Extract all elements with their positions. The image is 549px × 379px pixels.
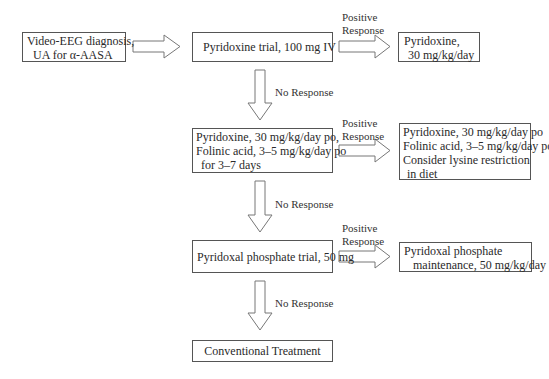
node-plp-maintenance: Pyridoxal phosphate maintenance, 50 mg/k… — [399, 242, 532, 272]
edge-label-no-response: No Response — [275, 198, 333, 211]
node-combo-trial: Pyridoxine, 30 mg/kg/day po, Folinic aci… — [192, 128, 333, 173]
node-text: Pyridoxine, — [404, 34, 479, 48]
label-line: Positive — [342, 117, 384, 130]
edge-label-no-response: No Response — [275, 86, 333, 99]
node-text: Folinic acid, 3–5 mg/kg/day po — [196, 144, 332, 158]
node-text: UA for α-AASA — [27, 48, 125, 62]
node-text: Video-EEG diagnosis, — [27, 34, 125, 48]
arrow-trial1-no-response — [248, 70, 272, 120]
node-text: Pyridoxine, 30 mg/kg/day po — [403, 125, 530, 139]
node-text: maintenance, 50 mg/kg/day — [404, 258, 531, 272]
node-pyridoxine-maintenance: Pyridoxine, 30 mg/kg/day — [398, 32, 480, 62]
arrow-trial3-no-response — [248, 281, 272, 330]
node-combo-maintenance: Pyridoxine, 30 mg/kg/day po Folinic acid… — [399, 123, 531, 180]
node-text: for 3–7 days — [196, 158, 332, 172]
node-text: 30 mg/kg/day — [404, 48, 479, 62]
label-line: Response — [342, 24, 384, 37]
arrow-trial1-positive — [339, 35, 390, 58]
label-line: Positive — [342, 222, 384, 235]
label-line: Positive — [342, 11, 384, 24]
node-text: Conventional Treatment — [193, 344, 332, 358]
arrow-diagnosis-to-trial — [133, 35, 180, 58]
node-text: in diet — [403, 167, 530, 181]
edge-label-positive: Positive Response — [342, 117, 384, 143]
node-diagnosis: Video-EEG diagnosis, UA for α-AASA — [22, 32, 126, 62]
node-conventional-treatment: Conventional Treatment — [192, 340, 333, 362]
label-line: Response — [342, 235, 384, 248]
label-line: Response — [342, 130, 384, 143]
node-text: Pyridoxal phosphate — [404, 244, 531, 258]
node-text: Pyridoxine, 30 mg/kg/day po, — [196, 130, 332, 144]
node-text: Consider lysine restriction — [403, 153, 530, 167]
node-text: Pyridoxal phosphate trial, 50 mg — [197, 250, 332, 264]
node-plp-trial: Pyridoxal phosphate trial, 50 mg — [192, 240, 333, 273]
node-text: Folinic acid, 3–5 mg/kg/day po — [403, 139, 530, 153]
node-pyridoxine-trial: Pyridoxine trial, 100 mg IV — [192, 32, 333, 62]
arrow-trial2-no-response — [248, 181, 272, 232]
edge-label-no-response: No Response — [275, 297, 333, 310]
node-text: Pyridoxine trial, 100 mg IV — [203, 40, 332, 54]
edge-label-positive: Positive Response — [342, 11, 384, 37]
edge-label-positive: Positive Response — [342, 222, 384, 248]
